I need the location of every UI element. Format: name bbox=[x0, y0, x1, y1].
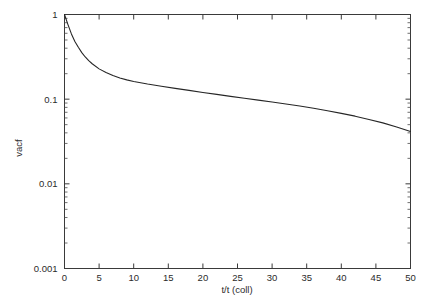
x-tick-label: 50 bbox=[405, 272, 416, 283]
x-axis-tick-labels: 05101520253035404550 bbox=[62, 272, 416, 283]
x-tick-label: 15 bbox=[163, 272, 174, 283]
x-tick-label: 35 bbox=[301, 272, 312, 283]
y-axis-minor-ticks bbox=[65, 18, 411, 243]
x-tick-label: 30 bbox=[267, 272, 278, 283]
chart-figure: 05101520253035404550 0.0010.010.11 t/t (… bbox=[0, 0, 426, 301]
x-axis-major-ticks bbox=[65, 15, 411, 269]
plot-frame bbox=[65, 15, 411, 269]
vacf-log-plot: 05101520253035404550 0.0010.010.11 t/t (… bbox=[0, 0, 426, 301]
x-tick-label: 40 bbox=[336, 272, 347, 283]
y-axis-title: vacf bbox=[13, 139, 24, 157]
x-tick-label: 0 bbox=[62, 272, 67, 283]
x-axis-title: t/t (coll) bbox=[221, 284, 252, 295]
vacf-data-curve bbox=[65, 15, 411, 132]
x-tick-label: 45 bbox=[371, 272, 382, 283]
y-axis-major-ticks bbox=[65, 15, 411, 269]
y-tick-label: 0.1 bbox=[44, 94, 57, 105]
x-tick-label: 10 bbox=[128, 272, 139, 283]
y-axis-tick-labels: 0.0010.010.11 bbox=[34, 9, 58, 274]
x-tick-label: 5 bbox=[96, 272, 101, 283]
y-tick-label: 0.01 bbox=[39, 178, 58, 189]
x-tick-label: 20 bbox=[198, 272, 209, 283]
x-tick-label: 25 bbox=[232, 272, 243, 283]
y-tick-label: 1 bbox=[52, 9, 57, 20]
y-tick-label: 0.001 bbox=[34, 263, 58, 274]
